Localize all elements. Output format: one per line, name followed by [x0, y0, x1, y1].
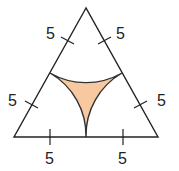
label-left: 5	[8, 92, 17, 109]
label-bottom-left: 5	[45, 150, 54, 167]
label-bottom-right: 5	[118, 150, 127, 167]
shaded-region	[50, 73, 122, 137]
triangle-diagram: 5 5 5 5 5 5	[0, 0, 179, 171]
label-right: 5	[157, 92, 166, 109]
label-top-right: 5	[116, 25, 125, 42]
label-top-left: 5	[46, 25, 55, 42]
